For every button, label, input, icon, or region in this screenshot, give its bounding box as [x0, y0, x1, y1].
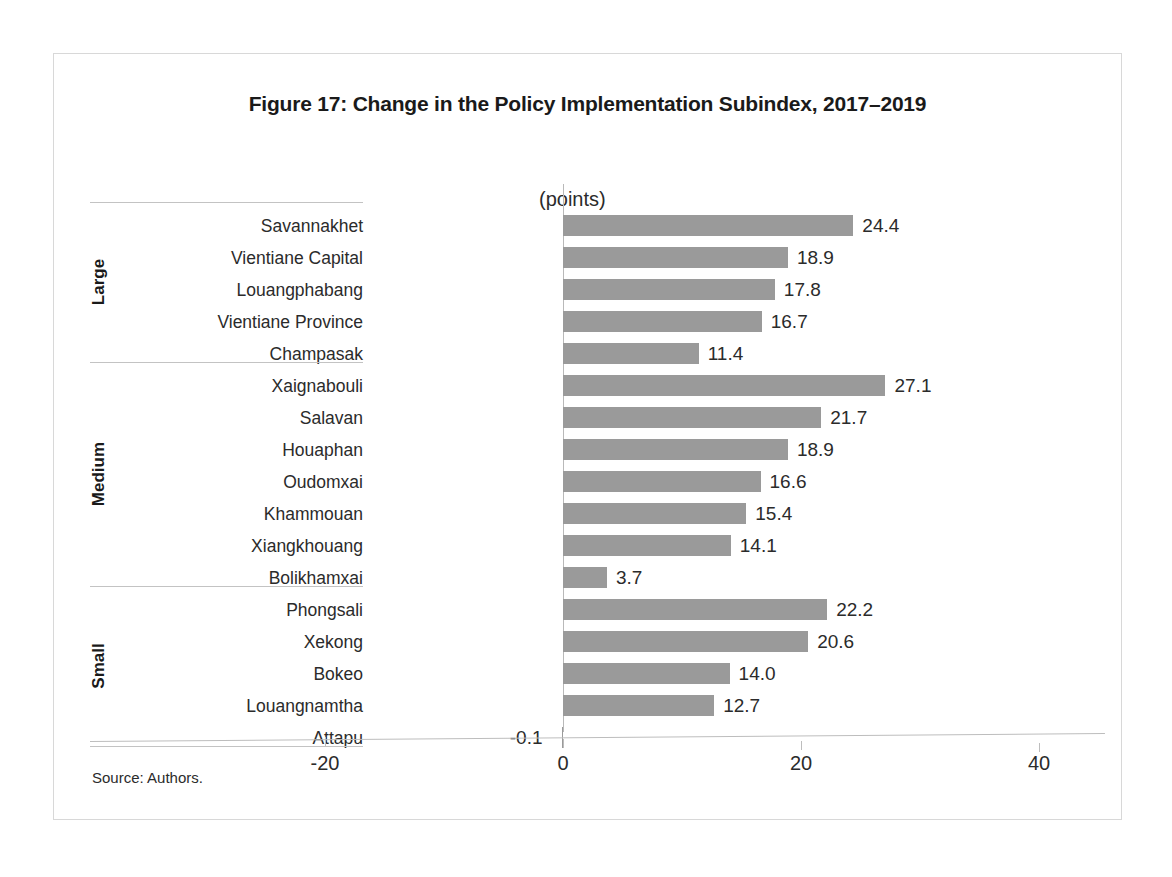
- bar: [563, 311, 762, 332]
- bar-value-label: 24.4: [862, 210, 899, 242]
- category-label: Khammouan: [113, 498, 363, 530]
- group-separator: [90, 362, 363, 363]
- group-label-large: Large: [89, 247, 109, 317]
- x-axis-tick-label: 20: [790, 752, 812, 775]
- category-label: Vientiane Province: [113, 306, 363, 338]
- category-label: Houaphan: [113, 434, 363, 466]
- bar-value-label: 12.7: [723, 690, 760, 722]
- bar: [563, 535, 731, 556]
- group-label-small: Small: [89, 631, 109, 701]
- bar-row: Xaignabouli27.1: [54, 370, 1123, 402]
- axis-unit-label: (points): [539, 188, 606, 211]
- bar-value-label: 14.0: [739, 658, 776, 690]
- bar-value-label: 11.4: [708, 338, 744, 370]
- category-label: Savannakhet: [113, 210, 363, 242]
- category-label: Phongsali: [113, 594, 363, 626]
- group-separator: [90, 202, 363, 203]
- group-separator: [90, 586, 363, 587]
- bar-value-label: 18.9: [797, 242, 834, 274]
- category-label: Oudomxai: [113, 466, 363, 498]
- category-label: Salavan: [113, 402, 363, 434]
- bar: [563, 503, 746, 524]
- bar-row: Bolikhamxai3.7: [54, 562, 1123, 594]
- x-axis-tick-label: -20: [311, 752, 340, 775]
- bar-row: Louangphabang17.8: [54, 274, 1123, 306]
- bar-value-label: 20.6: [817, 626, 854, 658]
- category-label: Champasak: [113, 338, 363, 370]
- bar: [563, 407, 821, 428]
- bar-row: Khammouan15.4: [54, 498, 1123, 530]
- x-axis-tick: [563, 739, 564, 748]
- bar-row: Xiangkhouang14.1: [54, 530, 1123, 562]
- bar: [563, 471, 761, 492]
- bar: [563, 631, 808, 652]
- bar-row: Xekong20.6: [54, 626, 1123, 658]
- bar-row: Bokeo14.0: [54, 658, 1123, 690]
- bar: [563, 375, 885, 396]
- category-label: Bokeo: [113, 658, 363, 690]
- bar-row: Vientiane Province16.7: [54, 306, 1123, 338]
- bar-value-label: 14.1: [740, 530, 777, 562]
- chart-title: Figure 17: Change in the Policy Implemen…: [54, 92, 1121, 116]
- bar: [563, 695, 714, 716]
- bar-row: Champasak11.4: [54, 338, 1123, 370]
- bar: [563, 567, 607, 588]
- bar-row: Houaphan18.9: [54, 434, 1123, 466]
- category-label: Vientiane Capital: [113, 242, 363, 274]
- bar-row: Louangnamtha12.7: [54, 690, 1123, 722]
- category-label: Xaignabouli: [113, 370, 363, 402]
- source-note: Source: Authors.: [92, 769, 203, 786]
- figure-frame: Figure 17: Change in the Policy Implemen…: [53, 53, 1122, 820]
- bar-value-label: 17.8: [784, 274, 821, 306]
- bar-row: Phongsali22.2: [54, 594, 1123, 626]
- bar: [563, 663, 730, 684]
- bar-value-label: 18.9: [797, 434, 834, 466]
- bar-row: Oudomxai16.6: [54, 466, 1123, 498]
- bar-row: Salavan21.7: [54, 402, 1123, 434]
- category-label: Xiangkhouang: [113, 530, 363, 562]
- bar-value-label: 22.2: [836, 594, 873, 626]
- bar: [563, 439, 788, 460]
- bar-row: Vientiane Capital18.9: [54, 242, 1123, 274]
- bar-value-label: 3.7: [616, 562, 642, 594]
- bar: [563, 599, 827, 620]
- x-axis-tick-label: 40: [1028, 752, 1050, 775]
- group-label-medium: Medium: [89, 439, 109, 509]
- bar: [563, 215, 853, 236]
- bar-chart-plot: (points) Savannakhet24.4Vientiane Capita…: [54, 184, 1123, 764]
- group-separator: [90, 746, 363, 747]
- bar: [563, 279, 775, 300]
- x-axis-tick-label: 0: [557, 752, 568, 775]
- bar-value-label: 27.1: [894, 370, 931, 402]
- x-axis-tick: [801, 741, 802, 750]
- x-axis-tick: [1039, 743, 1040, 752]
- bar-value-label: 15.4: [755, 498, 792, 530]
- x-axis-tick: [325, 737, 326, 746]
- bar-value-label: 16.6: [770, 466, 807, 498]
- category-label: Xekong: [113, 626, 363, 658]
- bar: [563, 343, 699, 364]
- category-label: Louangnamtha: [113, 690, 363, 722]
- bar-value-label: 21.7: [830, 402, 867, 434]
- bar-value-label: 16.7: [771, 306, 808, 338]
- bar: [563, 247, 788, 268]
- category-label: Louangphabang: [113, 274, 363, 306]
- category-label: Bolikhamxai: [113, 562, 363, 594]
- bar-row: Savannakhet24.4: [54, 210, 1123, 242]
